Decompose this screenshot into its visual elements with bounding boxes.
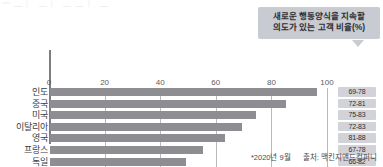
range-label-4: 81-88 [338,133,376,143]
category-label-2: 미국 [32,110,48,120]
category-label-0: 인도 [32,87,48,97]
callout-bubble: 새로운 행동양식을 지속할 의도가 있는 고객 비율(%) [258,7,380,39]
x-tick-label-80: 80 [267,78,276,87]
range-label-0: 69-78 [338,87,376,97]
bar-3 [50,123,242,131]
category-label-3: 이탈리아 [16,122,48,132]
bar-4 [50,134,225,142]
category-label-1: 중국 [32,99,48,109]
callout-line-1: 새로운 행동양식을 지속할 [262,11,376,22]
category-label-4: 영국 [32,133,48,143]
range-label-2: 75-83 [338,110,376,120]
x-tick-label-0: 0 [47,78,51,87]
range-label-3: 72-83 [338,122,376,132]
range-label-1: 72-81 [338,99,376,109]
x-tick-label-100: 100 [320,78,333,87]
footer: *2020년 9월 출처: 맥킨지앤드컴퍼니 [0,151,383,162]
callout-line-2: 의도가 있는 고객 비율(%) [262,22,376,33]
chart-figure: 〰 ﹏ ︴ ﹏ ︴ ﹏ ﹏ ︴ ﹏ 새로운 행동양식을 지속할 의도가 있는 고… [0,0,383,167]
bar-2 [50,111,256,119]
x-tick-label-60: 60 [211,78,220,87]
bar-1 [50,100,286,108]
cropped-header-text: 〰 ﹏ ︴ ﹏ ︴ ﹏ ﹏ ︴ ﹏ [2,0,109,8]
bar-0 [50,88,317,96]
x-tick-label-40: 40 [156,78,165,87]
footer-source: 출처: 맥킨지앤드컴퍼니 [303,153,377,162]
bar-chart: 020406080100 인도중국미국이탈리아영국프랑스독일일본 69-7872… [0,38,383,148]
footer-date: *2020년 9월 [251,153,291,162]
x-tick-label-20: 20 [100,78,109,87]
